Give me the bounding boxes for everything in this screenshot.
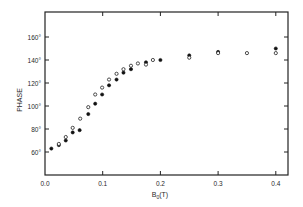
filled-circle-marker: [94, 102, 97, 105]
open-circle-marker: [79, 117, 82, 120]
open-circle-marker: [136, 62, 139, 65]
filled-circle-marker: [129, 68, 132, 71]
y-axis-label: PHASE: [16, 88, 23, 112]
filled-circle-marker: [50, 147, 53, 150]
plot-frame: [45, 12, 288, 175]
phase-vs-field-chart: 0.00.10.20.30.4 60°80°100°120°140°160° P…: [0, 0, 303, 207]
filled-circle-marker: [64, 139, 67, 142]
y-tick-label: 160°: [28, 34, 42, 41]
open-circle-marker: [122, 68, 125, 71]
filled-circle-marker: [107, 84, 110, 87]
open-circle-marker: [87, 106, 90, 109]
open-circle-marker: [107, 78, 110, 81]
x-tick-label: 0.1: [98, 180, 107, 187]
filled-circle-marker: [71, 131, 74, 134]
y-tick-label: 80°: [31, 126, 41, 133]
open-circle-marker: [71, 126, 74, 129]
filled-circle-marker: [274, 47, 277, 50]
open-circle-marker: [144, 63, 147, 66]
open-circle-marker: [115, 72, 118, 75]
open-circle-marker: [57, 142, 60, 145]
x-tick-label: 0.0: [40, 180, 49, 187]
filled-circle-marker: [101, 93, 104, 96]
open-circle-marker: [274, 52, 277, 55]
filled-circle-marker: [78, 129, 81, 132]
filled-circle-marker: [87, 112, 90, 115]
data-points: [50, 47, 278, 150]
open-circle-marker: [101, 86, 104, 89]
x-tick-label: 0.3: [214, 180, 223, 187]
filled-circle-marker: [159, 58, 162, 61]
x-axis-ticks: 0.00.10.20.30.4: [40, 12, 280, 187]
x-axis-label: B0(T): [152, 191, 168, 200]
x-tick-label: 0.4: [271, 180, 280, 187]
y-tick-label: 120°: [28, 80, 42, 87]
open-circle-marker: [188, 56, 191, 59]
x-axis-label-unit: (T): [159, 191, 168, 199]
open-circle-marker: [151, 58, 154, 61]
open-circle-marker: [217, 52, 220, 55]
filled-circle-marker: [115, 78, 118, 81]
y-tick-label: 140°: [28, 57, 42, 64]
y-tick-label: 60°: [31, 149, 41, 156]
open-circle-marker: [94, 93, 97, 96]
open-circle-marker: [245, 52, 248, 55]
y-tick-label: 100°: [28, 103, 42, 110]
x-tick-label: 0.2: [156, 180, 165, 187]
open-circle-marker: [129, 64, 132, 67]
open-circle-marker: [64, 135, 67, 138]
filled-circle-marker: [122, 71, 125, 74]
